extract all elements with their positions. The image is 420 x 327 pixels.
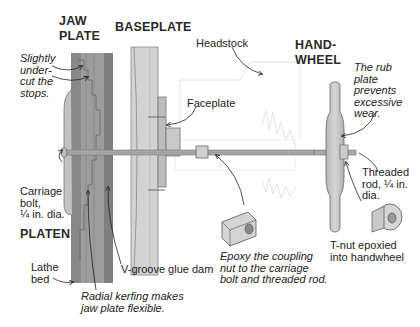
heading-handwheel-1: HAND- [295, 38, 336, 53]
callout-t-nut: T-nut epoxied into handwheel [330, 240, 404, 263]
coupling-nut [196, 146, 208, 158]
callout-threaded-rod: Threaded rod, ¼ in. dia. [362, 167, 409, 202]
handwheel [326, 82, 348, 232]
jaw-plate [64, 53, 113, 283]
callout-undercut: Slightly under- cut the stops. [20, 53, 55, 99]
heading-baseplate: BASEPLATE [115, 20, 192, 35]
callout-faceplate: Faceplate [187, 98, 235, 110]
heading-jaw-plate-1: JAW [59, 14, 87, 29]
headstock-ghost [175, 62, 300, 198]
callout-coupling-nut: Epoxy the coupling nut to the carriage b… [220, 251, 328, 286]
baseplate [131, 47, 158, 275]
heading-platen: PLATEN [20, 227, 70, 242]
heading-handwheel-2: WHEEL [295, 53, 341, 68]
callout-lathe-bed: Lathe bed [31, 262, 59, 285]
t-nut-detail [372, 204, 402, 232]
callout-rub-plate: The rub plate prevents excessive wear. [354, 62, 402, 120]
callout-v-groove: V-groove glue dam [121, 264, 213, 276]
callout-headstock: Headstock [196, 38, 248, 50]
coupling-nut-detail [222, 212, 256, 246]
callout-carriage-bolt: Carriage bolt, ¼ in. dia. [20, 186, 65, 221]
callout-radial-kerfing: Radial kerfing makes jaw plate flexible. [81, 291, 184, 314]
heading-jaw-plate-2: PLATE [59, 29, 100, 44]
